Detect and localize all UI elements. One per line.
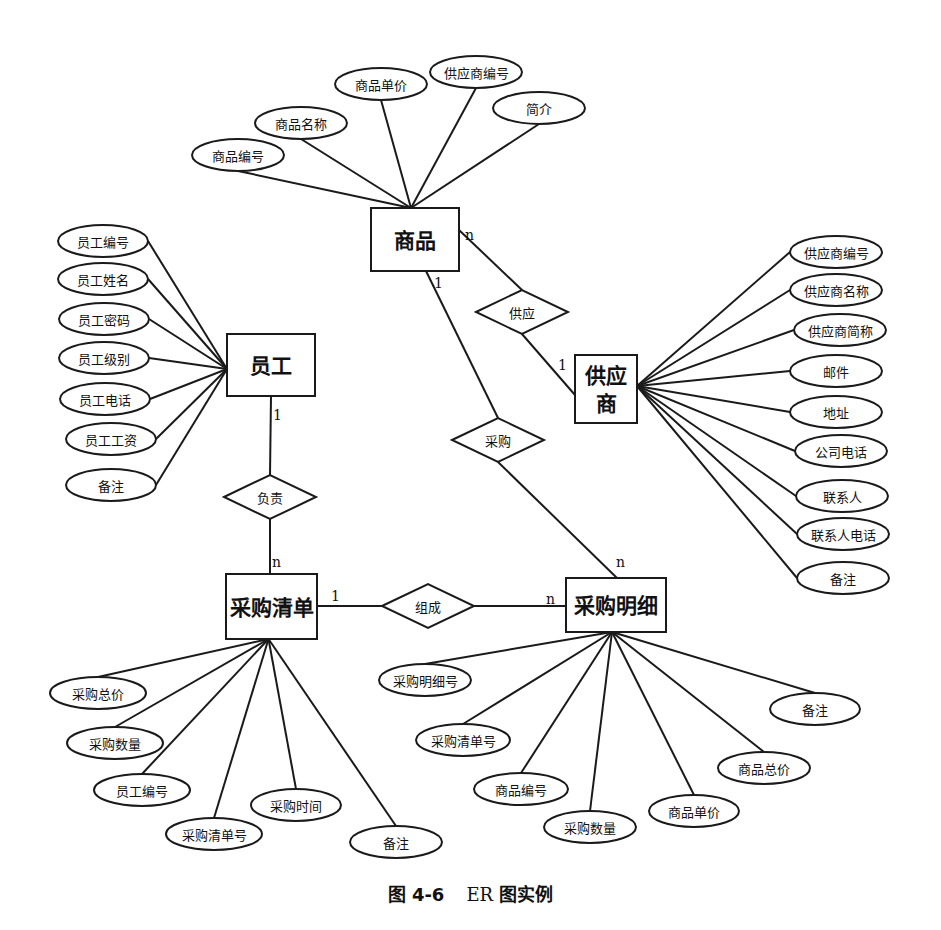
relationship-purchase-label: 采购 [485, 434, 511, 449]
caption-title: 图实例 [499, 884, 553, 905]
employee-attribute-link [149, 358, 227, 369]
supplier-attribute-label: 供应商名称 [804, 284, 869, 299]
employee-attribute-label: 备注 [98, 479, 124, 494]
diagram-labels: 商品编号商品名称商品单价供应商编号简介员工编号员工姓名员工密码员工级别员工电话员… [72, 66, 876, 851]
employee-attribute-link [149, 319, 227, 369]
purchase-detail-attribute-label: 采购清单号 [431, 734, 496, 749]
employee-attribute-label: 员工级别 [78, 352, 130, 367]
purchase-list-attribute-link [142, 639, 269, 774]
product-attribute-label: 商品编号 [212, 149, 264, 164]
cardinality-label: 1 [273, 407, 282, 423]
purchase-detail-attribute-link [612, 632, 815, 693]
employee-attribute-label: 员工姓名 [77, 273, 129, 288]
purchase-list-attribute-link [269, 639, 297, 789]
product-attribute-label: 简介 [526, 102, 552, 117]
purchase-list-attribute-label: 采购清单号 [182, 828, 247, 843]
entity-supplier-label-line1: 供应 [584, 364, 627, 388]
connector-lines [98, 88, 815, 826]
supplier-attribute-label: 邮件 [823, 365, 849, 380]
employee-attribute-link [148, 241, 227, 369]
cardinality-label: n [272, 554, 281, 570]
supplier-attribute-link [637, 252, 790, 386]
purchase-detail-attribute-label: 采购数量 [564, 821, 616, 836]
entity-employee-label: 员工 [250, 354, 292, 378]
supplier-attribute-label: 联系人电话 [811, 528, 876, 543]
purchase-detail-attribute-label: 采购明细号 [393, 674, 458, 689]
entity-product-label: 商品 [394, 229, 436, 253]
purchase-list-attribute-label: 员工编号 [116, 784, 168, 799]
relationship-responsible-label: 负责 [257, 491, 283, 506]
purchase-detail-attribute-link [521, 632, 612, 773]
entity-purchase-list-label: 采购清单 [230, 596, 314, 620]
purchase-list-attribute-label: 采购总价 [72, 687, 124, 702]
figure-number: 图 4-6 [388, 884, 445, 905]
employee-attribute-label: 员工工资 [85, 433, 137, 448]
cardinality-label: 1 [331, 588, 340, 604]
product-attribute-link [238, 171, 411, 208]
product-attribute-label: 商品单价 [355, 78, 407, 93]
supplier-attribute-label: 供应商简称 [808, 324, 873, 339]
product-attribute-label: 商品名称 [275, 117, 327, 132]
caption-er: ER [466, 884, 493, 905]
product-purchase-line [426, 271, 498, 418]
supply-supplier-line [522, 334, 575, 395]
cardinality-label: n [616, 554, 625, 570]
supplier-attribute-link [637, 290, 790, 386]
supplier-attribute-label: 供应商编号 [804, 246, 869, 261]
figure-caption: 图 4-6ER 图实例 [0, 880, 941, 906]
cardinality-label: 1 [434, 275, 443, 291]
employee-attribute-link [148, 279, 227, 369]
employee-attribute-link [150, 369, 227, 399]
relationship-compose-label: 组成 [415, 600, 441, 615]
employee-attribute-label: 员工编号 [77, 235, 129, 250]
product-attribute-link [411, 124, 539, 208]
purchase-detail-attribute-label: 商品总价 [738, 762, 790, 777]
employee-attribute-label: 员工密码 [78, 313, 130, 328]
purchase-detail-line [498, 462, 617, 578]
purchase-detail-attribute-link [463, 632, 612, 724]
purchase-detail-attribute-label: 商品编号 [495, 783, 547, 798]
supplier-attribute-label: 公司电话 [815, 445, 867, 460]
relationship-supply-label: 供应 [509, 306, 535, 321]
product-attribute-link [411, 88, 476, 208]
purchase-list-attribute-link [98, 639, 269, 677]
entity-purchase-detail-label: 采购明细 [574, 594, 658, 618]
employee-attribute-link [156, 369, 227, 485]
cardinality-label: n [465, 227, 474, 243]
cardinality-label: n [546, 591, 555, 607]
entity-supplier-label-line2: 商 [596, 392, 617, 416]
product-attribute-label: 供应商编号 [444, 66, 509, 81]
purchase-list-attribute-label: 备注 [383, 836, 409, 851]
purchase-detail-attribute-link [612, 632, 694, 795]
employee-attribute-label: 员工电话 [79, 393, 131, 408]
supplier-attribute-link [637, 386, 797, 578]
purchase-detail-attribute-label: 备注 [802, 703, 828, 718]
supplier-attribute-label: 联系人 [823, 490, 862, 505]
employee-responsible-line [270, 396, 271, 475]
supplier-attribute-label: 备注 [830, 572, 856, 587]
supplier-attribute-label: 地址 [823, 406, 849, 421]
purchase-detail-attribute-label: 商品单价 [668, 805, 720, 820]
purchase-list-attribute-label: 采购时间 [270, 799, 322, 814]
purchase-detail-attribute-link [612, 632, 764, 752]
cardinality-label: 1 [558, 357, 567, 373]
er-diagram: 商品编号商品名称商品单价供应商编号简介员工编号员工姓名员工密码员工级别员工电话员… [0, 0, 941, 930]
purchase-detail-attribute-link [590, 632, 612, 811]
purchase-detail-attribute-link [425, 632, 612, 664]
purchase-list-attribute-label: 采购数量 [89, 737, 141, 752]
